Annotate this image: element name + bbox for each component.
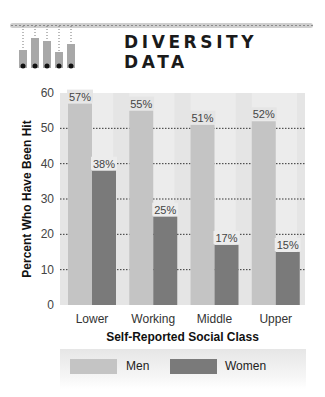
data-label: 57%	[69, 91, 91, 103]
data-label: 38%	[93, 158, 115, 170]
x-tick-label: Middle	[197, 312, 233, 326]
legend: Men Women	[60, 349, 306, 389]
data-label: 52%	[253, 108, 275, 120]
y-tick-label: 0	[47, 298, 54, 312]
x-tick-label: Lower	[76, 312, 109, 326]
y-tick-label: 50	[41, 121, 55, 135]
bar-women	[153, 217, 177, 305]
y-tick-label: 30	[41, 192, 55, 206]
x-tick-label: Working	[131, 312, 175, 326]
bar-women	[92, 171, 116, 305]
bar-chart: 010203040506057%38%Lower55%25%Working51%…	[0, 0, 325, 345]
x-axis-label: Self-Reported Social Class	[106, 330, 259, 344]
y-axis-label: Percent Who Have Been Hit	[20, 120, 34, 277]
data-label: 51%	[191, 112, 213, 124]
y-tick-label: 10	[41, 263, 55, 277]
y-tick-label: 60	[41, 86, 55, 100]
data-label: 15%	[277, 239, 299, 251]
bar-women	[276, 252, 300, 305]
bar-men	[191, 125, 215, 305]
bar-women	[215, 245, 239, 305]
bar-men	[129, 111, 153, 305]
data-label: 17%	[215, 232, 237, 244]
legend-label-women: Women	[225, 359, 266, 373]
x-tick-label: Upper	[259, 312, 292, 326]
legend-swatch-women	[170, 359, 217, 374]
legend-label-men: Men	[126, 359, 149, 373]
y-tick-label: 40	[41, 157, 55, 171]
data-label: 25%	[154, 204, 176, 216]
data-label: 55%	[130, 98, 152, 110]
y-tick-label: 20	[41, 227, 55, 241]
legend-swatch-men	[70, 359, 117, 374]
bar-men	[68, 104, 92, 305]
bar-men	[252, 121, 276, 305]
